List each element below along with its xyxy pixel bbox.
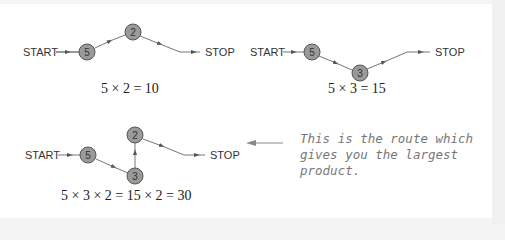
- equation-2: 5 × 3 = 15: [328, 81, 386, 97]
- start-label: START: [23, 46, 58, 58]
- pointer-arrow: [246, 140, 283, 146]
- node-label: 5: [309, 47, 315, 58]
- equation-1: 5 × 2 = 10: [101, 81, 159, 97]
- node-label: 5: [85, 150, 91, 161]
- stop-label: STOP: [210, 149, 240, 161]
- route-diagram-3: START STOP 5 3 2: [25, 127, 240, 184]
- largest-product-annotation: This is the route which gives you the la…: [300, 131, 490, 179]
- node-label: 3: [357, 68, 363, 79]
- node-label: 5: [84, 47, 90, 58]
- start-label: START: [25, 149, 60, 161]
- route-diagram-1: START STOP 5 2: [23, 24, 235, 60]
- node-label: 2: [130, 27, 136, 38]
- route-diagram-2: START STOP 5 3: [250, 44, 465, 81]
- start-label: START: [250, 46, 285, 58]
- node-label: 2: [132, 130, 138, 141]
- equation-3: 5 × 3 × 2 = 15 × 2 = 30: [61, 188, 191, 204]
- stop-label: STOP: [435, 46, 465, 58]
- node-label: 3: [132, 171, 138, 182]
- stop-label: STOP: [205, 46, 235, 58]
